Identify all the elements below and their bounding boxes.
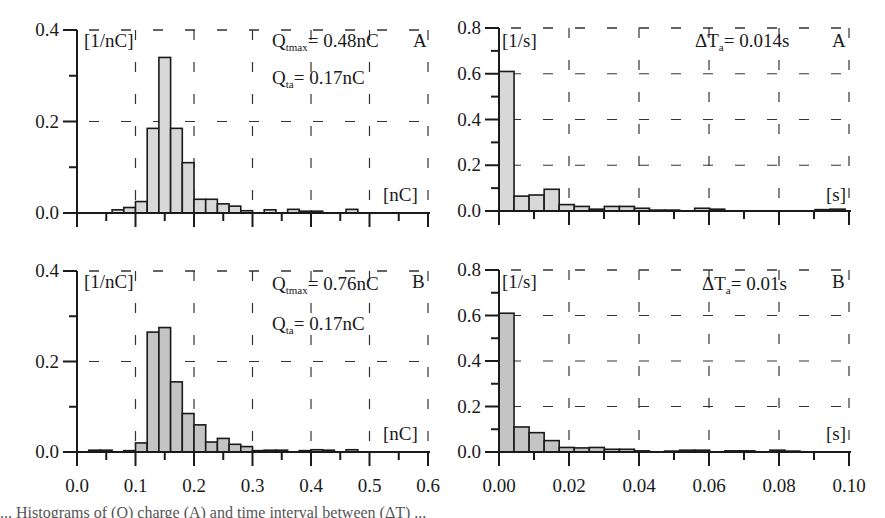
y-tick-label: 0.4 bbox=[35, 19, 59, 40]
x-tick-label: 0.00 bbox=[482, 475, 515, 496]
x-tick-label: 0.3 bbox=[241, 475, 265, 496]
panel-letter: A bbox=[413, 30, 427, 51]
y-tick-label: 0.4 bbox=[457, 350, 481, 371]
annotation-text: Qtmax= 0.48nC bbox=[272, 30, 379, 53]
y-tick-label: 0.2 bbox=[457, 154, 481, 175]
histogram-bar bbox=[217, 438, 229, 452]
histogram-bar bbox=[171, 128, 183, 213]
x-tick-label: 0.1 bbox=[124, 475, 148, 496]
histogram-bar bbox=[229, 206, 241, 213]
histogram-bar bbox=[499, 313, 514, 452]
y-tick-label: 0.0 bbox=[457, 441, 481, 462]
histogram-panel-b-charge: 0.00.20.40.00.10.20.30.40.50.6[1/nC][nC]… bbox=[35, 260, 440, 496]
histogram-bar bbox=[182, 163, 194, 213]
x-tick-label: 0.5 bbox=[358, 475, 382, 496]
histogram-bar bbox=[171, 382, 183, 452]
y-tick-label: 0.0 bbox=[457, 200, 481, 221]
x-unit-label: [nC] bbox=[383, 184, 418, 205]
y-tick-label: 0.0 bbox=[35, 202, 59, 223]
y-tick-label: 0.0 bbox=[35, 441, 59, 462]
histogram-bar bbox=[499, 71, 514, 211]
histogram-bar bbox=[229, 444, 241, 452]
y-tick-label: 0.8 bbox=[457, 259, 481, 280]
histogram-bar bbox=[194, 199, 206, 213]
x-tick-label: 0.02 bbox=[552, 475, 585, 496]
x-unit-label: [s] bbox=[826, 423, 846, 444]
axes bbox=[63, 271, 430, 466]
histogram-bar bbox=[544, 189, 559, 211]
histogram-bar bbox=[206, 442, 218, 452]
panel-letter: A bbox=[832, 30, 846, 51]
y-tick-label: 0.2 bbox=[457, 396, 481, 417]
x-tick-label: 0.06 bbox=[692, 475, 725, 496]
annotation-text: Qta= 0.17nC bbox=[272, 313, 365, 336]
y-unit-label: [1/s] bbox=[502, 30, 537, 51]
histogram-bar bbox=[136, 443, 148, 452]
histogram-bar bbox=[182, 414, 194, 452]
x-tick-label: 0.4 bbox=[299, 475, 323, 496]
histogram-bars bbox=[89, 328, 358, 452]
grid-lines bbox=[89, 271, 428, 452]
histogram-bar bbox=[136, 202, 148, 213]
grid-lines bbox=[511, 28, 849, 211]
annotation-text: ΔTa= 0.01s bbox=[702, 273, 787, 296]
x-tick-label: 0.10 bbox=[832, 475, 865, 496]
panel-letter: B bbox=[832, 271, 845, 292]
histogram-bar bbox=[529, 195, 544, 211]
histogram-bar bbox=[206, 199, 218, 213]
histogram-panel-b-interval: 0.00.20.40.60.80.000.020.040.060.080.10[… bbox=[457, 259, 865, 496]
histogram-bar bbox=[159, 328, 171, 452]
histogram-bar bbox=[147, 332, 159, 452]
y-unit-label: [1/nC] bbox=[84, 30, 134, 51]
histogram-bars bbox=[499, 71, 845, 211]
y-tick-label: 0.6 bbox=[457, 305, 481, 326]
y-tick-label: 0.8 bbox=[457, 17, 481, 38]
x-unit-label: [nC] bbox=[383, 423, 418, 444]
histogram-bar bbox=[544, 441, 559, 452]
grid-lines bbox=[511, 270, 849, 452]
histogram-bars bbox=[499, 313, 800, 452]
annotation-text: ΔTa= 0.014s bbox=[695, 30, 789, 53]
x-tick-label: 0.2 bbox=[182, 475, 206, 496]
y-tick-label: 0.2 bbox=[35, 351, 59, 372]
histogram-bar bbox=[217, 204, 229, 213]
y-unit-label: [1/nC] bbox=[84, 271, 134, 292]
x-tick-label: 0.04 bbox=[622, 475, 656, 496]
histogram-panel-a-charge: 0.00.20.4[1/nC][nC]Qtmax= 0.48nCQta= 0.1… bbox=[35, 19, 430, 227]
grid-lines bbox=[89, 30, 428, 213]
x-unit-label: [s] bbox=[826, 184, 846, 205]
figure-caption-fragment: ... Histograms of (Q) charge (A) and tim… bbox=[0, 504, 885, 518]
x-tick-label: 0.08 bbox=[762, 475, 795, 496]
annotation-text: Qta= 0.17nC bbox=[272, 67, 365, 90]
histogram-bar bbox=[514, 196, 529, 211]
y-tick-label: 0.4 bbox=[457, 109, 481, 130]
histogram-figure: 0.00.20.4[1/nC][nC]Qtmax= 0.48nCQta= 0.1… bbox=[0, 0, 885, 518]
axes bbox=[63, 30, 430, 227]
histogram-bar bbox=[159, 57, 171, 213]
histogram-bar bbox=[529, 433, 544, 452]
histogram-bar bbox=[194, 425, 206, 452]
y-tick-label: 0.2 bbox=[35, 111, 59, 132]
x-tick-label: 0.6 bbox=[416, 475, 440, 496]
histogram-panel-a-interval: 0.00.20.40.60.8[1/s][s]ΔTa= 0.014sA bbox=[457, 17, 851, 225]
y-unit-label: [1/s] bbox=[502, 271, 537, 292]
annotation-text: Qtmax= 0.76nC bbox=[272, 273, 379, 296]
histogram-bar bbox=[147, 128, 159, 213]
histogram-bar bbox=[514, 427, 529, 452]
x-tick-label: 0.0 bbox=[65, 475, 89, 496]
panel-letter: B bbox=[412, 271, 425, 292]
y-tick-label: 0.6 bbox=[457, 63, 481, 84]
y-tick-label: 0.4 bbox=[35, 260, 59, 281]
